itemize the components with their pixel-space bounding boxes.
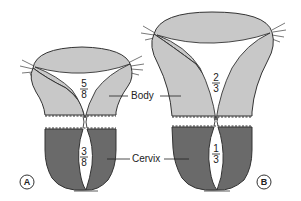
body-fraction-denominator-b: 3 (213, 83, 219, 94)
panel-a: 5 8 3 8 A (20, 47, 144, 191)
cervix-a (45, 129, 86, 190)
body-fraction-numerator-a: 5 (81, 78, 87, 89)
cervix-label: Cervix (132, 153, 160, 164)
body-fraction-numerator-b: 2 (213, 72, 219, 83)
panel-label-a: A (24, 177, 31, 187)
fimbriae-right-b (272, 23, 286, 42)
cervix-fraction-numerator-a: 3 (81, 146, 87, 157)
panel-b: 2 3 1 3 B (141, 12, 286, 191)
body-fraction-denominator-a: 8 (81, 89, 87, 100)
cervix-fraction-denominator-a: 8 (81, 157, 87, 168)
body-label: Body (131, 90, 154, 101)
cervix-fraction-numerator-b: 1 (213, 143, 219, 154)
cervix-fraction-denominator-b: 3 (213, 154, 219, 165)
panel-label-b: B (261, 177, 268, 187)
uterus-proportion-diagram: 5 8 3 8 A 2 3 1 (0, 0, 301, 201)
